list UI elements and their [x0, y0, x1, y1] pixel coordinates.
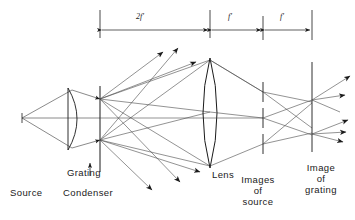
order-b-escape-down2	[100, 140, 200, 172]
exit-rays	[312, 76, 350, 142]
label-image-of-grating-line3: grating	[293, 185, 349, 195]
dimension-label-2f: 2f'	[136, 12, 144, 21]
label-images-of-source-line1: Images	[228, 175, 288, 185]
exit-ray-6	[312, 100, 340, 112]
diffracted-orders-lower-point	[100, 48, 210, 190]
source-ray-upper	[22, 90, 72, 118]
img-ray-mid-a	[210, 112, 263, 118]
final-ray-5	[263, 92, 312, 102]
label-image-of-grating-line1: Image	[293, 163, 349, 173]
final-ray-1	[263, 92, 312, 128]
exit-ray-1	[312, 76, 350, 100]
label-images-of-source-line2: of	[228, 186, 288, 196]
cond-ray-2	[72, 140, 100, 148]
img-ray-top-b	[210, 60, 263, 92]
order-b-to-lens-bot	[100, 140, 210, 166]
cond-ray-1	[72, 90, 100, 99]
label-condenser: Condenser	[63, 188, 113, 198]
order-b-to-lens-top	[100, 60, 210, 140]
label-source: Source	[10, 188, 43, 198]
lens-to-source-images	[210, 60, 263, 166]
order-a-escape-up1	[100, 52, 163, 99]
final-ray-3	[263, 118, 312, 135]
order-b-escape-down1	[100, 140, 152, 190]
label-image-of-grating-line2: of	[293, 174, 349, 184]
exit-ray-2	[312, 95, 345, 100]
final-ray-6	[263, 133, 312, 144]
dimension-label-f2: f'	[280, 12, 284, 21]
condenser-curved-face	[68, 88, 77, 150]
label-grating: Grating	[67, 168, 101, 178]
figure-canvas: Source Grating Condenser Lens Images of …	[0, 0, 355, 220]
order-a-to-lens-top	[100, 60, 210, 99]
condenser-lens	[68, 88, 77, 150]
lens-right-face	[210, 58, 217, 168]
focal-to-image-rays	[263, 92, 312, 144]
img-ray-bot-a	[210, 144, 263, 166]
source-ray-lower	[22, 118, 72, 148]
exit-ray-5	[312, 134, 343, 142]
condenser-output-rays	[72, 90, 100, 148]
order-a-to-lens-mid	[100, 99, 210, 112]
label-images-of-source-line3: source	[228, 197, 288, 207]
order-b-escape-up1	[100, 48, 178, 140]
source-rays	[22, 90, 72, 148]
dimension-label-f1: f'	[228, 12, 232, 21]
diffracted-orders-upper-point	[100, 52, 210, 182]
